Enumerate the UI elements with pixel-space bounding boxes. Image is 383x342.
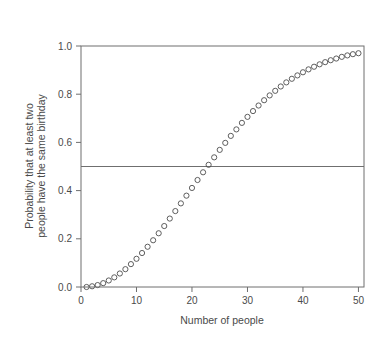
chart-canvas: 01020304050 0.00.20.40.60.81.0 Number of… (0, 0, 383, 342)
y-tick-label: 0.2 (58, 233, 72, 244)
x-tick-label: 20 (186, 295, 198, 306)
y-tick-label: 0.4 (58, 185, 72, 196)
x-tick-label: 40 (297, 295, 309, 306)
y-tick-label: 0.8 (58, 89, 72, 100)
y-tick-label: 0.6 (58, 137, 72, 148)
y-tick-label: 1.0 (58, 41, 72, 52)
y-axis-label-line1: Probability that at least two (23, 103, 35, 229)
x-axis-label: Number of people (180, 314, 264, 326)
x-tick-label: 30 (242, 295, 254, 306)
y-axis-title: Probability that at least two people hav… (23, 93, 47, 237)
x-tick-label: 10 (131, 295, 143, 306)
birthday-problem-chart: 01020304050 0.00.20.40.60.81.0 Number of… (0, 0, 383, 342)
x-tick-label: 50 (353, 295, 365, 306)
y-axis-label-line2: people have the same birthday (35, 93, 47, 237)
x-axis: 01020304050 (78, 287, 364, 306)
x-axis-title: Number of people (180, 314, 264, 326)
y-axis: 0.00.20.40.60.81.0 (58, 41, 81, 293)
y-tick-label: 0.0 (58, 282, 72, 293)
x-tick-label: 0 (78, 295, 84, 306)
